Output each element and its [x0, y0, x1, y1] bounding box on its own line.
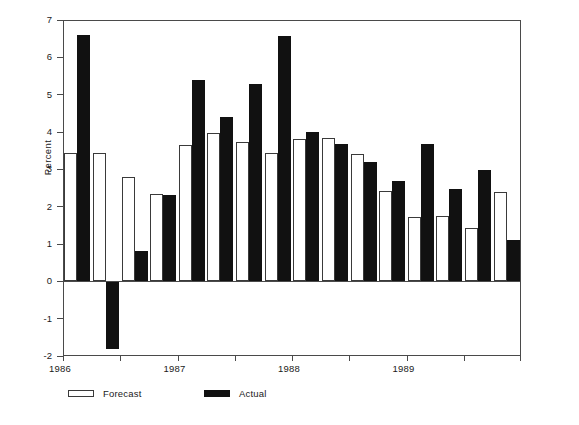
bar-forecast: [351, 154, 364, 282]
y-tick-label: 3: [28, 163, 52, 175]
bar-actual: [507, 240, 520, 282]
chart-legend: ForecastActual: [0, 388, 579, 418]
x-axis-year-label: 1989: [393, 363, 415, 374]
legend-entry-actual: Actual: [204, 388, 267, 399]
bar-forecast: [64, 153, 77, 282]
y-tick-label: 1: [28, 238, 52, 250]
x-axis-year-label: 1986: [49, 363, 71, 374]
y-tick-label: 7: [28, 14, 52, 26]
bar-forecast: [122, 177, 135, 281]
bar-forecast: [265, 153, 278, 281]
legend-label: Forecast: [103, 388, 142, 399]
y-tick-label: 6: [28, 51, 52, 63]
bar-forecast: [408, 217, 421, 281]
bar-actual: [192, 80, 205, 281]
bar-forecast: [436, 216, 449, 281]
bar-actual: [106, 281, 119, 349]
bar-actual: [163, 195, 176, 281]
y-tick-label: -2: [28, 350, 52, 362]
y-tick-label: 2: [28, 201, 52, 213]
y-axis-title: Percent: [42, 98, 53, 218]
bar-actual: [449, 189, 462, 282]
bar-actual: [421, 144, 434, 281]
x-tick-mark: [178, 356, 179, 361]
x-tick-mark: [520, 356, 521, 361]
legend-swatch-forecast: [68, 390, 94, 397]
bar-forecast: [93, 153, 106, 281]
y-tick-label: 4: [28, 126, 52, 138]
bar-actual: [77, 35, 90, 281]
x-tick-mark: [349, 356, 350, 361]
bar-forecast: [236, 142, 249, 281]
bar-actual: [135, 251, 148, 281]
bar-actual: [249, 84, 262, 281]
bar-actual: [335, 144, 348, 281]
bar-forecast: [322, 138, 335, 281]
bar-actual: [392, 181, 405, 281]
bar-actual: [278, 36, 291, 281]
bar-forecast: [379, 191, 392, 282]
zero-baseline: [63, 281, 521, 282]
y-tick-label: -1: [28, 313, 52, 325]
x-axis-year-label: 1988: [278, 363, 300, 374]
bars-layer: [63, 20, 521, 356]
legend-entry-forecast: Forecast: [68, 388, 142, 399]
x-tick-mark: [464, 356, 465, 361]
bar-actual: [364, 162, 377, 281]
bar-forecast: [179, 145, 192, 281]
bar-actual: [220, 117, 233, 281]
x-tick-mark: [120, 356, 121, 361]
bar-forecast: [494, 192, 507, 281]
x-tick-mark: [235, 356, 236, 361]
x-tick-mark: [63, 356, 64, 361]
y-tick-label: 5: [28, 89, 52, 101]
x-axis-year-label: 1987: [164, 363, 186, 374]
bar-actual: [478, 170, 491, 281]
bar-forecast: [465, 228, 478, 282]
bar-actual: [306, 132, 319, 281]
legend-swatch-actual: [204, 390, 230, 397]
bar-forecast: [150, 194, 163, 281]
x-tick-mark: [407, 356, 408, 361]
chart-figure: Percent 76543210-1-2 1986198719881989 Fo…: [0, 0, 579, 425]
y-tick-label: 0: [28, 275, 52, 287]
legend-label: Actual: [239, 388, 267, 399]
bar-forecast: [293, 139, 306, 281]
x-tick-mark: [292, 356, 293, 361]
bar-forecast: [207, 133, 220, 281]
